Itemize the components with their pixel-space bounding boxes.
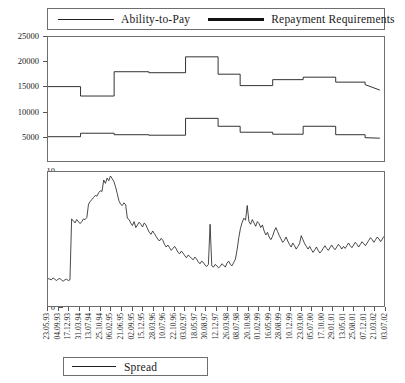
- legend-line-sample-thin-icon: [58, 19, 114, 20]
- x-tick-mark: [290, 307, 291, 311]
- top-panel-y-tick-label: 5000: [22, 133, 39, 142]
- legend-top: Ability-to-Pay Repayment Requirements: [47, 8, 385, 30]
- x-tick-mark: [47, 307, 48, 311]
- x-tick-label: 30.08.97: [201, 313, 209, 340]
- x-tick-label: 13.07.94: [85, 313, 93, 340]
- x-tick-mark: [353, 307, 354, 311]
- x-tick-label: 23.05.93: [43, 313, 51, 340]
- top-panel-svg: [48, 37, 384, 161]
- x-tick-label: 25.08.01: [349, 313, 357, 340]
- x-tick-mark: [132, 307, 133, 311]
- x-tick-mark: [227, 307, 228, 311]
- x-tick-mark: [364, 307, 365, 311]
- bottom-panel-plot-area: [47, 171, 385, 307]
- x-tick-mark: [100, 307, 101, 311]
- legend-entry-ability-to-pay: Ability-to-Pay: [48, 9, 190, 29]
- x-tick-label: 23.03.00: [297, 313, 305, 340]
- x-tick-mark: [89, 307, 90, 311]
- x-tick-mark: [121, 307, 122, 311]
- legend-label-repayment-requirements: Repayment Requirements: [271, 13, 395, 25]
- legend-bottom: Spread: [63, 357, 208, 376]
- x-tick-label: 10.07.96: [159, 313, 167, 340]
- top-panel-y-axis: 500010000150002000025000: [0, 36, 45, 162]
- x-tick-mark: [279, 307, 280, 311]
- top-panel-y-tick-label: 25000: [18, 32, 39, 41]
- x-tick-label: 25.10.94: [96, 313, 104, 340]
- x-tick-label: 13.05.01: [339, 313, 347, 340]
- x-tick-label: 15.12.95: [138, 313, 146, 340]
- x-tick-label: 17.10.00: [318, 313, 326, 340]
- legend-line-sample-thick-icon: [208, 18, 264, 21]
- x-tick-mark: [184, 307, 185, 311]
- x-tick-label: 07.12.01: [360, 313, 368, 340]
- x-tick-label: 21.03.02: [370, 313, 378, 340]
- x-tick-mark: [110, 307, 111, 311]
- top-panel-y-tick-label: 20000: [18, 57, 39, 66]
- legend-entry-repayment-requirements: Repayment Requirements: [190, 9, 395, 29]
- top-panel-plot-area: [47, 36, 385, 162]
- chart-container: Ability-to-Pay Repayment Requirements 50…: [0, 0, 405, 383]
- x-tick-label: 20.10.98: [244, 313, 252, 340]
- legend-label-ability-to-pay: Ability-to-Pay: [121, 13, 190, 25]
- x-tick-label: 17.12.93: [64, 313, 72, 340]
- x-tick-label: 28.08.99: [275, 313, 283, 340]
- x-tick-mark: [79, 307, 80, 311]
- x-tick-mark: [216, 307, 217, 311]
- x-tick-mark: [153, 307, 154, 311]
- x-axis-date-labels: 23.05.9304.09.9317.12.9331.03.9413.07.94…: [47, 307, 385, 353]
- x-tick-label: 05.07.00: [307, 313, 315, 340]
- x-tick-mark: [322, 307, 323, 311]
- top-panel-y-tick-label: 10000: [18, 107, 39, 116]
- x-tick-label: 08.07.98: [233, 313, 241, 340]
- x-tick-label: 01.02.99: [254, 313, 262, 340]
- x-tick-mark: [58, 307, 59, 311]
- x-tick-label: 10.12.99: [286, 313, 294, 340]
- x-tick-mark: [205, 307, 206, 311]
- x-tick-label: 28.03.96: [149, 313, 157, 340]
- bottom-panel-svg: [48, 172, 384, 306]
- top-panel-y-tick-label: 15000: [18, 82, 39, 91]
- series-line-repayment-requirements: [48, 118, 380, 138]
- x-tick-mark: [269, 307, 270, 311]
- x-tick-mark: [301, 307, 302, 311]
- x-tick-label: 26.03.98: [223, 313, 231, 340]
- x-tick-mark: [385, 307, 386, 311]
- x-tick-label: 18.05.97: [191, 313, 199, 340]
- x-tick-label: 31.03.94: [75, 313, 83, 340]
- x-tick-label: 22.10.96: [170, 313, 178, 340]
- x-tick-label: 03.07.02: [381, 313, 389, 340]
- x-tick-mark: [248, 307, 249, 311]
- x-tick-label: 04.09.93: [54, 313, 62, 340]
- x-tick-mark: [311, 307, 312, 311]
- x-tick-mark: [195, 307, 196, 311]
- x-tick-mark: [237, 307, 238, 311]
- x-tick-mark: [343, 307, 344, 311]
- series-line-ability-to-pay: [48, 57, 380, 96]
- x-tick-mark: [332, 307, 333, 311]
- x-tick-mark: [374, 307, 375, 311]
- series-line-spread: [48, 176, 384, 281]
- x-tick-label: 03.02.97: [180, 313, 188, 340]
- x-tick-label: 29.01.01: [328, 313, 336, 340]
- x-tick-mark: [163, 307, 164, 311]
- legend-label-spread: Spread: [124, 361, 157, 373]
- x-tick-mark: [68, 307, 69, 311]
- x-tick-mark: [142, 307, 143, 311]
- legend-line-sample-spread-icon: [72, 366, 116, 367]
- x-tick-label: 21.06.95: [117, 313, 125, 340]
- x-tick-label: 16.05.99: [265, 313, 273, 340]
- x-tick-label: 06.02.95: [106, 313, 114, 340]
- x-tick-label: 02.09.95: [128, 313, 136, 340]
- x-tick-label: 12.12.97: [212, 313, 220, 340]
- x-tick-mark: [174, 307, 175, 311]
- x-tick-mark: [258, 307, 259, 311]
